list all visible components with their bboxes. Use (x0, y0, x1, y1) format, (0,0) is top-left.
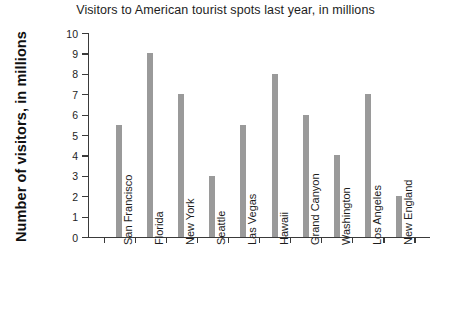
y-axis-tick: 7 (82, 94, 88, 95)
y-axis-tick: 5 (82, 135, 88, 136)
x-axis-tick (135, 237, 136, 243)
x-axis-tick (104, 237, 105, 243)
y-axis-tick-label: 9 (72, 49, 78, 60)
x-axis-label: New England (403, 180, 414, 245)
y-axis-tick-label: 7 (72, 90, 78, 101)
y-axis-tick: 3 (82, 176, 88, 177)
x-axis-tick (259, 237, 260, 243)
x-axis-label-text: Los Angeles (372, 185, 383, 245)
x-axis-label-text: Seattle (216, 211, 227, 245)
y-axis-tick: 9 (82, 53, 88, 54)
y-axis-tick-label: 5 (72, 130, 78, 141)
y-axis-tick: 10 (82, 33, 88, 34)
x-axis-label: New York (185, 199, 196, 245)
x-axis-label: Washington (341, 187, 352, 245)
x-axis-label: Grand Canyon (310, 173, 321, 245)
x-axis-label: Hawaii (279, 212, 290, 245)
x-axis-label: Las Vegas (247, 194, 258, 245)
x-axis-label-text: Washington (341, 187, 352, 245)
y-axis-tick: 8 (82, 74, 88, 75)
y-axis-tick: 1 (82, 217, 88, 218)
bar (396, 196, 402, 237)
y-axis-tick: 4 (82, 155, 88, 156)
y-axis-title: Number of visitors, in millions (13, 0, 35, 50)
x-axis-tick (321, 237, 322, 243)
x-axis-label: Florida (154, 211, 165, 245)
bar (365, 94, 371, 237)
x-axis-tick (228, 237, 229, 243)
x-axis-label-text: New England (403, 180, 414, 245)
y-axis-title-label: Number of visitors, in millions (13, 32, 29, 242)
x-axis-tick (166, 237, 167, 243)
y-axis-line (88, 33, 89, 237)
y-axis-tick: 2 (82, 196, 88, 197)
y-axis-tick: 0 (82, 237, 88, 238)
y-axis-tick-label: 10 (66, 28, 78, 39)
bar (147, 53, 153, 237)
bar-chart: Visitors to American tourist spots last … (0, 0, 451, 315)
x-axis-label-text: New York (185, 199, 196, 245)
y-axis-tick-label: 1 (72, 212, 78, 223)
x-axis-tick (290, 237, 291, 243)
x-axis-label-text: Florida (154, 211, 165, 245)
x-axis-tick (383, 237, 384, 243)
chart-title: Visitors to American tourist spots last … (0, 3, 451, 17)
x-axis-label-text: Grand Canyon (310, 173, 321, 245)
y-axis-tick-label: 2 (72, 192, 78, 203)
y-axis-tick-label: 6 (72, 110, 78, 121)
x-axis-label-text: Las Vegas (247, 194, 258, 245)
bar (334, 155, 340, 237)
x-axis-tick (352, 237, 353, 243)
y-axis-tick: 6 (82, 115, 88, 116)
x-axis-label: Seattle (216, 211, 227, 245)
x-axis-label: Los Angeles (372, 185, 383, 245)
y-axis-tick-label: 0 (72, 232, 78, 243)
x-axis-tick (197, 237, 198, 243)
bar (272, 74, 278, 237)
x-axis-tick (414, 237, 415, 243)
y-axis-tick-label: 4 (72, 151, 78, 162)
y-axis-tick-label: 8 (72, 69, 78, 80)
x-axis-label: San Francisco (123, 175, 134, 245)
bar (303, 115, 309, 237)
y-axis-tick-label: 3 (72, 171, 78, 182)
x-axis-label-text: San Francisco (123, 175, 134, 245)
x-axis-label-text: Hawaii (279, 212, 290, 245)
